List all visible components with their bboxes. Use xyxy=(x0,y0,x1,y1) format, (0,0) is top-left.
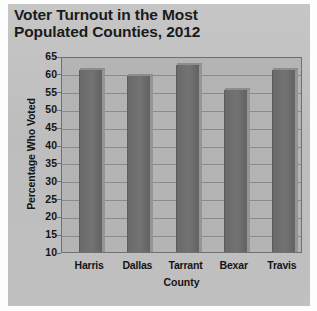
y-axis-tickmark xyxy=(57,146,61,147)
bar-top-face xyxy=(177,63,202,65)
y-axis-tick-45: 45 xyxy=(17,121,57,133)
y-axis-tick-30: 30 xyxy=(17,175,57,187)
plot-area xyxy=(61,57,302,253)
bar-top-face xyxy=(80,68,105,70)
y-axis-label: Percentage Who Voted xyxy=(25,79,37,229)
bar-top-face xyxy=(273,68,298,70)
bar-side-face xyxy=(150,76,153,252)
bar-dallas xyxy=(127,76,150,252)
y-axis-tick-50: 50 xyxy=(17,103,57,115)
y-axis-tickmark xyxy=(57,128,61,129)
x-axis-tick-travis: Travis xyxy=(247,259,317,271)
y-axis-tickmark xyxy=(57,163,61,164)
y-axis-tick-35: 35 xyxy=(17,157,57,169)
y-axis-tick-15: 15 xyxy=(17,228,57,240)
chart-figure: Voter Turnout in the Most Populated Coun… xyxy=(0,0,317,311)
y-axis-tickmark xyxy=(57,253,61,254)
bar-tarrant xyxy=(176,65,199,252)
chart-title-line-1: Voter Turnout in the Most xyxy=(14,6,198,23)
bar-top-face xyxy=(225,88,250,90)
y-axis-tickmark xyxy=(57,199,61,200)
chart-title-line-2: Populated Counties, 2012 xyxy=(14,23,200,40)
y-axis-tickmark xyxy=(57,235,61,236)
y-axis-tick-20: 20 xyxy=(17,210,57,222)
bar-side-face xyxy=(247,90,250,252)
y-axis-tickmark xyxy=(57,217,61,218)
bar-travis xyxy=(272,70,295,252)
y-axis-tick-65: 65 xyxy=(17,50,57,62)
y-axis-tick-10: 10 xyxy=(17,246,57,258)
chart-title: Voter Turnout in the Most Populated Coun… xyxy=(14,6,284,40)
y-axis-tickmark xyxy=(57,57,61,58)
y-axis-tickmark xyxy=(57,74,61,75)
bar-side-face xyxy=(295,70,298,252)
bar-harris xyxy=(79,70,102,252)
bar-side-face xyxy=(102,70,105,252)
x-axis-label: County xyxy=(61,276,302,288)
bar-side-face xyxy=(199,65,202,252)
bar-bexar xyxy=(224,90,247,252)
y-axis-tickmark xyxy=(57,181,61,182)
y-axis-tickmark xyxy=(57,92,61,93)
y-axis-tick-25: 25 xyxy=(17,193,57,205)
bar-top-face xyxy=(128,74,153,76)
y-axis-tickmark xyxy=(57,110,61,111)
y-axis-tick-40: 40 xyxy=(17,139,57,151)
y-axis-tick-60: 60 xyxy=(17,68,57,80)
y-axis-tick-55: 55 xyxy=(17,86,57,98)
